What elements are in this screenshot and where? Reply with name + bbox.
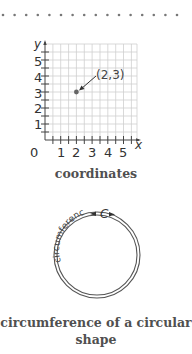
circumference-caption-line-2: shape — [0, 331, 192, 348]
circumference-symbol: C — [100, 207, 109, 221]
circumference-caption: circumference of a circular shape — [0, 314, 192, 348]
arc-label-text: circumference — [0, 0, 86, 264]
arc-label: circumference — [0, 0, 86, 264]
circumference-figure: circumference C — [0, 0, 192, 354]
circumference-caption-line-1: circumference of a circular — [0, 314, 192, 331]
